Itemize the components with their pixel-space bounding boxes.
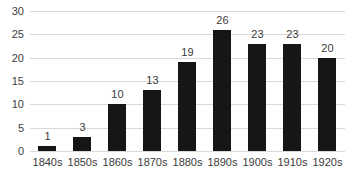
x-tick-label-1880s: 1880s <box>173 157 203 168</box>
bar-slot: 3 <box>65 11 100 151</box>
bar-1920s[interactable] <box>318 58 336 151</box>
y-tick-label: 20 <box>12 52 24 63</box>
bar-value-label: 3 <box>79 122 85 133</box>
bar-slot: 20 <box>310 11 345 151</box>
y-tick-label: 10 <box>12 99 24 110</box>
bar-slot: 23 <box>275 11 310 151</box>
x-tick-label-1900s: 1900s <box>242 157 272 168</box>
bar-value-label: 26 <box>216 15 228 26</box>
bar-1870s[interactable] <box>143 90 161 151</box>
bar-value-label: 23 <box>286 29 298 40</box>
x-tick-label-1870s: 1870s <box>138 157 168 168</box>
y-tick-label: 15 <box>12 76 24 87</box>
bar-1850s[interactable] <box>73 137 91 151</box>
x-tick-label-1890s: 1890s <box>207 157 237 168</box>
x-axis: 1840s 1850s 1860s 1870s 1880s 1890s 1900… <box>30 157 345 173</box>
bar-slot: 13 <box>135 11 170 151</box>
y-tick-label: 25 <box>12 29 24 40</box>
bar-value-label: 1 <box>44 131 50 142</box>
x-tick-label-1850s: 1850s <box>68 157 98 168</box>
bar-slot: 23 <box>240 11 275 151</box>
y-tick-label: 30 <box>12 6 24 17</box>
y-tick-label: 0 <box>18 146 24 157</box>
bar-slot: 26 <box>205 11 240 151</box>
bar-slot: 19 <box>170 11 205 151</box>
bar-value-label: 13 <box>146 75 158 86</box>
bar-value-label: 19 <box>181 47 193 58</box>
y-axis: 30 25 20 15 10 5 0 <box>0 0 26 179</box>
bar-slot: 1 <box>30 11 65 151</box>
y-tick-label: 5 <box>18 122 24 133</box>
bar-slot: 10 <box>100 11 135 151</box>
bar-chart: 30 25 20 15 10 5 0 1 3 10 13 19 2 <box>0 0 352 179</box>
bar-value-label: 23 <box>251 29 263 40</box>
bars-layer: 1 3 10 13 19 26 23 23 <box>30 11 345 151</box>
bar-1890s[interactable] <box>213 30 231 151</box>
x-tick-label-1840s: 1840s <box>33 157 63 168</box>
bar-1910s[interactable] <box>283 44 301 151</box>
axis-baseline <box>30 151 345 152</box>
bar-value-label: 10 <box>111 89 123 100</box>
bar-value-label: 20 <box>321 43 333 54</box>
bar-1860s[interactable] <box>108 104 126 151</box>
bar-1880s[interactable] <box>178 62 196 151</box>
x-tick-label-1920s: 1920s <box>312 157 342 168</box>
x-tick-label-1860s: 1860s <box>103 157 133 168</box>
x-tick-label-1910s: 1910s <box>277 157 307 168</box>
bar-1900s[interactable] <box>248 44 266 151</box>
bar-1840s[interactable] <box>38 146 56 151</box>
